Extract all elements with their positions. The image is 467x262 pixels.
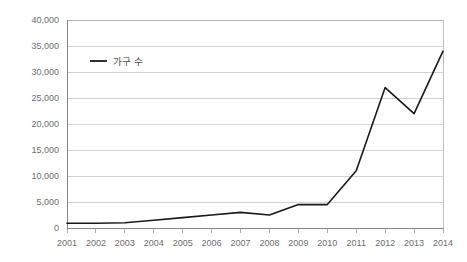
x-tick-label-2013: 2013 [404,238,424,248]
x-tick-label-2008: 2008 [259,238,279,248]
chart-canvas: 05,00010,00015,00020,00025,00030,00035,0… [0,0,467,262]
line-chart: 05,00010,00015,00020,00025,00030,00035,0… [0,0,467,262]
x-tick-label-2014: 2014 [433,238,453,248]
x-tick-label-2012: 2012 [375,238,395,248]
y-tick-label-15000: 15,000 [31,145,59,155]
y-tick-label-0: 0 [54,223,59,233]
y-tick-label-10000: 10,000 [31,171,59,181]
x-tick-label-2011: 2011 [347,238,366,248]
x-tick-label-2003: 2003 [115,238,135,248]
x-tick-label-2004: 2004 [144,238,164,248]
x-tick-label-2001: 2001 [57,238,77,248]
x-tick-label-2007: 2007 [231,238,251,248]
y-tick-label-35000: 35,000 [31,41,59,51]
y-tick-label-25000: 25,000 [31,93,59,103]
x-tick-label-2009: 2009 [288,238,308,248]
y-tick-label-5000: 5,000 [36,197,59,207]
y-tick-label-30000: 30,000 [31,67,59,77]
legend-label-0: 가구 수 [113,56,143,67]
x-tick-label-2006: 2006 [202,238,222,248]
x-tick-label-2002: 2002 [86,238,106,248]
y-tick-label-40000: 40,000 [31,15,59,25]
x-tick-label-2005: 2005 [173,238,193,248]
x-tick-label-2010: 2010 [317,238,337,248]
y-tick-label-20000: 20,000 [31,119,59,129]
